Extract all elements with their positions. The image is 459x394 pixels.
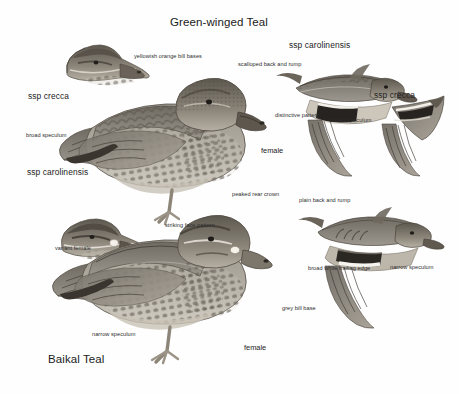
label-narrow-speculum-flight: narrow speculum (390, 264, 433, 270)
label-scalloped-back-and-rump: scalloped back and rump (238, 61, 301, 67)
label-female-green-winged: female (261, 146, 283, 155)
label-broad-speculum-right: broad speculum (331, 117, 372, 123)
duck-illustrations (0, 0, 459, 394)
label-narrow-speculum-body: narrow speculum (92, 331, 135, 337)
title-green-winged-teal: Green-winged Teal (170, 16, 268, 28)
label-plain-back-and-rump: plain back and rump (299, 197, 350, 203)
label-yellowish-orange-bill-bases: yellowish orange bill bases (134, 53, 202, 59)
label-distinctive-pattern: distinctive pattern (275, 112, 319, 118)
figure-gwt-standing-female (59, 78, 266, 224)
illustration-plate: Green-winged Teal Baikal Teal ssp crecca… (0, 0, 459, 394)
label-variant-female: variant female (55, 245, 91, 251)
label-broad-white-trailing-edge: broad white trailing edge (308, 265, 370, 271)
title-baikal-teal: Baikal Teal (48, 353, 105, 365)
figure-gwt-crecca-wing (382, 96, 444, 176)
label-female-baikal: female (244, 343, 266, 352)
label-broad-speculum-left: broad speculum (26, 132, 67, 138)
label-peaked-rear-crown: peaked rear crown (232, 191, 279, 197)
label-ssp-carolinensis-body: ssp carolinensis (27, 167, 88, 177)
label-ssp-crecca-head: ssp crecca (28, 91, 69, 101)
label-grey-bill-base: grey bill base (282, 305, 316, 311)
figure-gwt-crecca-head (67, 45, 150, 85)
label-striking-face-pattern: striking face pattern (165, 222, 215, 228)
label-ssp-crecca-wing: ssp crecca (374, 90, 415, 100)
label-ssp-carolinensis-flight: ssp carolinensis (289, 40, 350, 50)
